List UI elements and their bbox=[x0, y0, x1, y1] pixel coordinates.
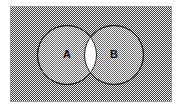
venn-diagram-figure: A B bbox=[0, 0, 181, 109]
venn-stage: A B bbox=[0, 0, 181, 109]
set-label-a: A bbox=[60, 49, 74, 60]
set-label-b: B bbox=[107, 49, 121, 60]
